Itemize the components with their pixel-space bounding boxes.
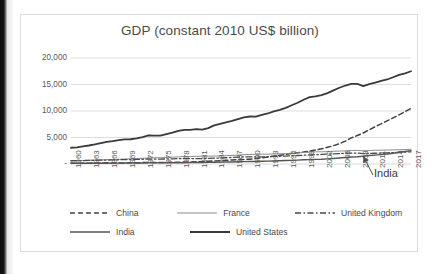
legend-item-united-kingdom[interactable]: United Kingdom (294, 208, 419, 218)
y-tick-label: 5,000 (21, 133, 67, 142)
x-tick-label: 1960 (74, 150, 83, 168)
x-tick-label: 2017 (414, 150, 423, 168)
x-tick-label: 2008 (361, 150, 370, 168)
legend-item-france[interactable]: France (176, 208, 294, 218)
x-tick-label: 1963 (92, 150, 101, 168)
legend-label: India (116, 227, 135, 237)
y-tick-label: - (21, 159, 67, 168)
x-tick-label: 1972 (146, 150, 155, 168)
legend-label: United States (236, 227, 288, 237)
x-tick-label: 1969 (128, 150, 137, 168)
x-tick-label: 1993 (271, 150, 280, 168)
page-edge-shadow (0, 0, 7, 274)
x-tick-label: 1978 (182, 150, 191, 168)
x-tick-label: 1981 (200, 150, 209, 168)
x-tick-label: 2014 (396, 150, 405, 168)
x-tick-label: 1996 (289, 150, 298, 168)
legend-row-1: ChinaFranceUnited Kingdom (21, 203, 419, 222)
legend-item-india[interactable]: India (69, 227, 189, 237)
annotation-label-india: India (374, 167, 398, 179)
chart-container: GDP (constant 2010 US$ billion) -5,00010… (20, 14, 418, 252)
chart-legend: ChinaFranceUnited Kingdom IndiaUnited St… (21, 203, 419, 241)
x-tick-label: 2002 (325, 150, 334, 168)
legend-label: United Kingdom (341, 208, 402, 218)
legend-label: France (223, 208, 250, 218)
legend-swatch (189, 227, 231, 237)
y-tick-label: 10,000 (21, 106, 67, 115)
x-tick-label: 1987 (235, 150, 244, 168)
legend-swatch (69, 227, 111, 237)
legend-row-2: IndiaUnited States (21, 222, 419, 241)
legend-swatch (294, 208, 336, 218)
legend-swatch (69, 208, 111, 218)
x-tick-label: 2005 (343, 150, 352, 168)
x-tick-label: 1999 (307, 150, 316, 168)
x-tick-label: 1975 (164, 150, 173, 168)
x-tick-label: 1990 (253, 150, 262, 168)
legend-label: China (116, 208, 138, 218)
x-tick-label: 2011 (378, 151, 387, 168)
legend-swatch (176, 208, 218, 218)
x-tick-label: 1966 (110, 150, 119, 168)
legend-item-china[interactable]: China (69, 208, 176, 218)
y-tick-label: 15,000 (21, 80, 67, 89)
legend-item-united-states[interactable]: United States (189, 227, 321, 237)
x-tick-label: 1984 (217, 150, 226, 168)
page-edge-highlight (7, 0, 13, 274)
y-tick-label: 20,000 (21, 53, 67, 62)
series-line-united-states (71, 71, 411, 147)
